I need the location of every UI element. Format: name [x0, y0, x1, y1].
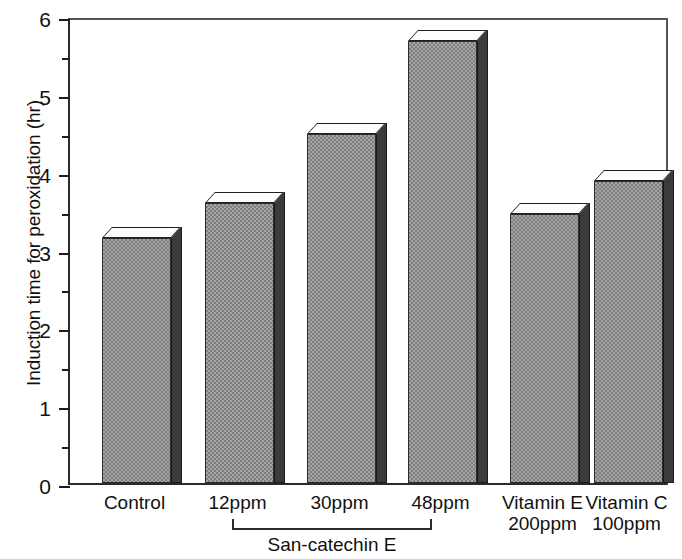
bar [408, 30, 488, 483]
group-bracket [232, 519, 432, 530]
y-tick-major: 3 [59, 253, 70, 255]
y-tick-minor [62, 214, 70, 216]
y-tick-label: 2 [39, 320, 51, 341]
y-tick-label: 6 [39, 9, 51, 30]
y-tick-minor [62, 447, 70, 449]
y-tick-major: 4 [59, 175, 70, 177]
plot-area: 0123456 [68, 18, 668, 485]
bar-chart: Induction time for peroxidation (hr) 012… [0, 0, 682, 559]
y-tick-major: 5 [59, 97, 70, 99]
bar-side-face [579, 203, 590, 483]
y-tick-minor [62, 291, 70, 293]
bar-top-face [408, 30, 487, 41]
bar [205, 192, 285, 483]
y-tick-label: 0 [39, 476, 51, 497]
bar-front-face [594, 181, 663, 483]
y-tick-minor [62, 136, 70, 138]
bar-top-face [205, 192, 284, 203]
bar-front-face [307, 134, 376, 483]
bar-side-face [663, 170, 674, 483]
bar-top-face [594, 170, 673, 181]
bar-side-face [477, 30, 488, 483]
x-axis-label: Control [75, 492, 195, 513]
y-tick-label: 3 [39, 243, 51, 264]
bar-front-face [408, 41, 477, 483]
bar-side-face [171, 227, 182, 483]
y-tick-label: 5 [39, 87, 51, 108]
y-tick-minor [62, 58, 70, 60]
bar-side-face [274, 192, 285, 483]
bar [102, 227, 182, 483]
bar-top-face [307, 123, 386, 134]
bar-side-face [376, 123, 387, 483]
bar [594, 170, 674, 483]
y-tick-major: 0 [59, 486, 70, 488]
y-tick-label: 1 [39, 398, 51, 419]
bar-top-face [102, 227, 181, 238]
x-axis-label: Vitamin C 100ppm [567, 492, 682, 534]
bar-front-face [510, 214, 579, 483]
bar [307, 123, 387, 483]
bar-front-face [205, 203, 274, 483]
bar-top-face [510, 203, 589, 214]
y-tick-major: 6 [59, 19, 70, 21]
group-bracket-label: San-catechin E [182, 534, 482, 556]
y-tick-label: 4 [39, 165, 51, 186]
bar-front-face [102, 238, 171, 483]
bar [510, 203, 590, 483]
y-tick-major: 1 [59, 408, 70, 410]
y-tick-minor [62, 369, 70, 371]
y-tick-major: 2 [59, 330, 70, 332]
